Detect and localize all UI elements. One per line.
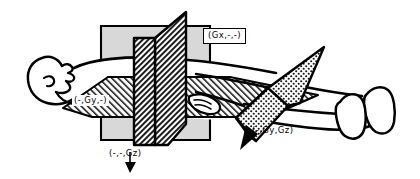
label-gx: (Gx,-,-) (203, 28, 246, 44)
head-profile (28, 57, 76, 104)
label-gz: (-,-,Gz) (109, 148, 141, 159)
mri-gradient-plane-diagram: (Gx,-,-) (-,Gy,-) (-,-,Gz) (-,Gy,Gz) (0, 0, 420, 179)
label-gy: (-,Gy,-) (72, 95, 109, 106)
diagram-canvas (0, 0, 420, 179)
label-gy-gz: (-,Gy,Gz) (252, 125, 293, 136)
